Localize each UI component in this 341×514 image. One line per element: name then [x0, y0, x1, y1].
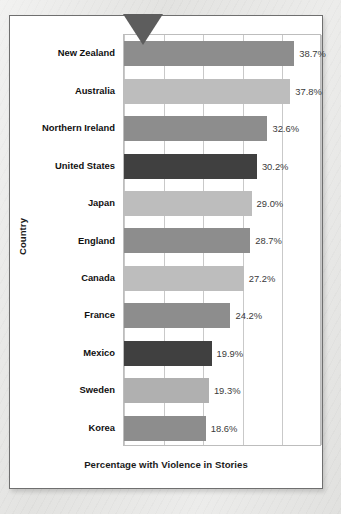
bar-chart: Country 38.7%37.8%32.6%30.2%29.0%28.7%27…: [10, 16, 322, 488]
x-axis-title: Percentage with Violence in Stories: [10, 459, 322, 470]
bar-row: 30.2%: [124, 147, 320, 184]
bar-row: 19.3%: [124, 372, 320, 409]
plot-area: 38.7%37.8%32.6%30.2%29.0%28.7%27.2%24.2%…: [123, 34, 321, 446]
category-label: Canada: [0, 272, 115, 283]
category-label: United States: [0, 160, 115, 171]
bar-row: 37.8%: [124, 72, 320, 109]
bar-value-label: 28.7%: [255, 235, 282, 246]
bar[interactable]: [124, 154, 257, 179]
category-label: New Zealand: [0, 47, 115, 58]
bar-value-label: 29.0%: [257, 198, 284, 209]
bar-value-label: 27.2%: [249, 273, 276, 284]
bar[interactable]: [124, 416, 206, 441]
category-label: Korea: [0, 422, 115, 433]
bar[interactable]: [124, 341, 212, 366]
category-label: Mexico: [0, 347, 115, 358]
bar-value-label: 19.9%: [217, 348, 244, 359]
figure-card: Country 38.7%37.8%32.6%30.2%29.0%28.7%27…: [9, 15, 323, 489]
bar[interactable]: [124, 79, 290, 104]
down-triangle-pointer-icon: [123, 14, 163, 45]
bar-value-label: 38.7%: [299, 48, 326, 59]
category-label: Japan: [0, 197, 115, 208]
bar[interactable]: [124, 378, 209, 403]
bar-row: 18.6%: [124, 410, 320, 447]
bar[interactable]: [124, 303, 230, 328]
bar-row: 27.2%: [124, 260, 320, 297]
bar-row: 28.7%: [124, 222, 320, 259]
bar-value-label: 32.6%: [272, 123, 299, 134]
bar-value-label: 18.6%: [211, 423, 238, 434]
category-label: England: [0, 235, 115, 246]
bar-row: 29.0%: [124, 185, 320, 222]
category-label: Northern Ireland: [0, 122, 115, 133]
bar[interactable]: [124, 116, 267, 141]
bar[interactable]: [124, 191, 252, 216]
bar-value-label: 19.3%: [214, 385, 241, 396]
bar[interactable]: [124, 266, 244, 291]
bar-row: 32.6%: [124, 110, 320, 147]
bar-row: 19.9%: [124, 335, 320, 372]
bar-row: 24.2%: [124, 297, 320, 334]
category-label: France: [0, 309, 115, 320]
bar-value-label: 24.2%: [235, 310, 262, 321]
category-label: Australia: [0, 85, 115, 96]
category-label: Sweden: [0, 384, 115, 395]
bar[interactable]: [124, 228, 250, 253]
bar-value-label: 37.8%: [295, 86, 322, 97]
bar-value-label: 30.2%: [262, 161, 289, 172]
